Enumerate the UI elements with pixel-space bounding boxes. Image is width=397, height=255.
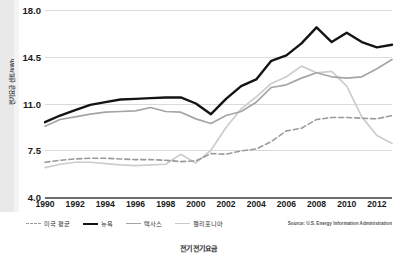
legend-swatch-icon [26, 223, 41, 224]
plot-area [45, 10, 392, 197]
x-tick-label: 1992 [66, 199, 85, 209]
legend-item-1[interactable]: 뉴욕 [83, 219, 113, 228]
x-tick-label: 2012 [367, 199, 386, 209]
legend-label: 뉴욕 [101, 219, 113, 228]
y-axis-tick-labels: 18.014.511.07.54.0 [0, 10, 41, 197]
x-tick-label: 1990 [35, 199, 54, 209]
legend-swatch-icon [126, 223, 141, 224]
x-axis-tick-labels: 1990199219941996199820002002200420062008… [45, 199, 392, 213]
y-tick-label: 14.5 [1, 51, 41, 62]
x-tick-label: 2010 [337, 199, 356, 209]
x-tick-label: 1998 [156, 199, 175, 209]
x-tick-label: 2006 [277, 199, 296, 209]
y-tick-label: 18.0 [1, 5, 41, 16]
source-note: Source: U.S. Energy Information Administ… [288, 221, 392, 226]
legend-swatch-icon [175, 223, 190, 224]
legend-item-2[interactable]: 텍사스 [126, 219, 162, 228]
legend-swatch-icon [83, 223, 98, 225]
x-tick-label: 2004 [247, 199, 266, 209]
figure-caption: 전기 전기요금 [0, 243, 397, 253]
legend-label: 미국 평균 [44, 219, 70, 228]
y-tick-label: 7.5 [1, 145, 41, 156]
y-tick-label: 11.0 [1, 98, 41, 109]
x-tick-label: 2000 [186, 199, 205, 209]
legend-item-0[interactable]: 미국 평균 [26, 219, 70, 228]
x-tick-label: 2002 [216, 199, 235, 209]
series-line-뉴욕 [45, 27, 392, 122]
x-tick-label: 2008 [307, 199, 326, 209]
legend-label: 캘리포니아 [193, 219, 223, 228]
legend-item-3[interactable]: 캘리포니아 [175, 219, 223, 228]
legend-label: 텍사스 [144, 219, 162, 228]
series-line-텍사스 [45, 59, 392, 126]
chart-series-svg [45, 10, 392, 197]
x-tick-label: 1996 [126, 199, 145, 209]
chart-legend: 미국 평균뉴욕텍사스캘리포니아 [26, 219, 223, 228]
x-tick-label: 1994 [96, 199, 115, 209]
chart-page: 전기요금 센트/kWh 18.014.511.07.54.0 199019921… [0, 0, 397, 255]
